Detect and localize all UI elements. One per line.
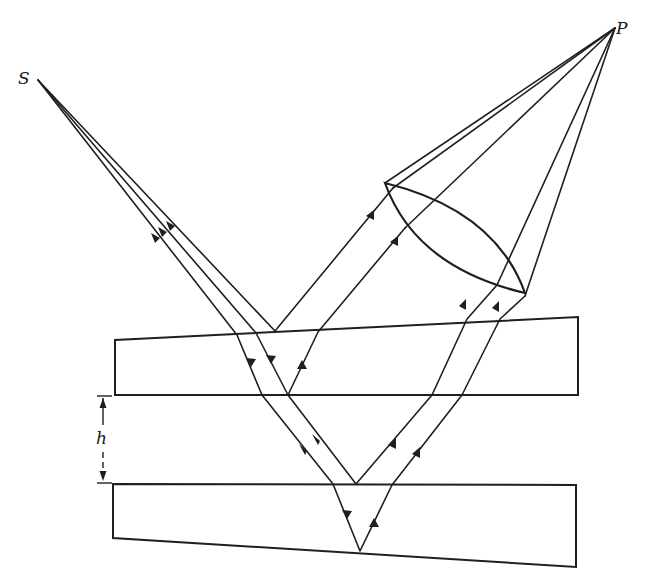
focused-rays — [385, 28, 615, 296]
converging-lens — [385, 183, 525, 293]
thin-film-interference-diagram: S P h — [0, 0, 655, 585]
incident-rays — [38, 80, 288, 395]
source-label: S — [18, 68, 30, 88]
upper-glass-plate — [115, 317, 578, 395]
point-label: P — [615, 18, 628, 38]
gap-thickness-label: h — [96, 428, 107, 448]
ray-direction-arrows — [151, 210, 499, 527]
lower-glass-plate — [113, 484, 576, 567]
